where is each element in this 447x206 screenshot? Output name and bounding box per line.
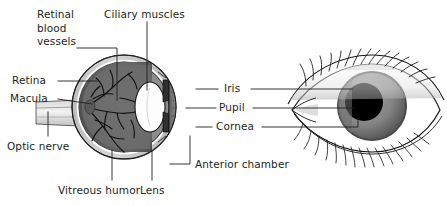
iris-upper <box>163 80 169 102</box>
label-optic-nerve: Optic nerve <box>7 140 69 154</box>
label-ciliary-muscles: Ciliary muscles <box>104 8 185 22</box>
label-retina: Retina <box>12 74 46 88</box>
macula <box>85 100 95 114</box>
label-cornea: Cornea <box>216 120 254 134</box>
label-anterior-chamber: Anterior chamber <box>195 158 289 172</box>
label-retinal-blood-vessels: Retinal blood vessels <box>37 8 76 49</box>
label-macula: Macula <box>10 92 48 106</box>
label-lens: Lens <box>140 184 165 198</box>
label-pupil: Pupil <box>219 101 245 115</box>
lens <box>135 82 165 132</box>
cornea <box>171 70 196 144</box>
label-vitreous-humor: Vitreous humor <box>58 184 140 198</box>
leader-anterior-chamber <box>170 136 190 164</box>
iris-lower <box>163 112 169 132</box>
label-iris: Iris <box>224 82 240 96</box>
eye-anatomy-figure: Retinal blood vessels Ciliary muscles Re… <box>0 0 447 206</box>
